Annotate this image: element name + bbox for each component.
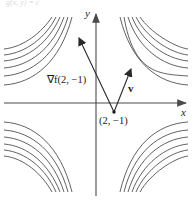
level-curves-lower-left bbox=[4, 122, 72, 192]
level-curve-figure: g(x, y) = c bbox=[0, 0, 193, 200]
point-coordinate-label: (2, −1) bbox=[99, 116, 128, 127]
gradient-vector-label: ∇f(2, −1) bbox=[47, 75, 86, 86]
level-curves-upper-right bbox=[120, 17, 188, 85]
level-curves-lower-right bbox=[120, 122, 188, 192]
y-axis-label: y bbox=[85, 8, 90, 19]
point-marker bbox=[112, 110, 115, 113]
direction-vector-label: v bbox=[128, 83, 134, 94]
figure-canvas bbox=[0, 0, 193, 200]
x-axis-label: x bbox=[181, 107, 186, 118]
